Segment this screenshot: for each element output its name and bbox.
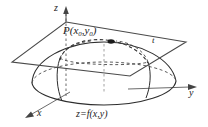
dome-meridian-right-hidden [116,41,148,62]
tangent-plane [12,22,186,76]
tangency-point-marker [108,39,115,43]
point-label: P(x0,y0) [63,25,96,37]
dome-meridian-right [146,62,150,98]
dome-outline [32,42,176,83]
y-axis-label: y [189,88,193,98]
tangent-plane-label: t [152,36,155,45]
x-axis-arrow-icon [25,112,34,119]
tangent-plane-figure: z y x t P(x0,y0) z=f(x,y) [0,0,208,127]
z-axis-label: z [54,3,58,13]
tangent-plane-shape [12,22,186,76]
z-axis-arrow-icon [63,6,69,14]
x-axis-label: x [37,108,41,118]
surface-equation-label: z=f(x,y) [76,109,107,119]
y-axis-line [128,87,190,89]
point-label-p: P(x [63,24,78,36]
dome-meridian-left [57,58,62,101]
point-label-end: ) [93,24,97,36]
